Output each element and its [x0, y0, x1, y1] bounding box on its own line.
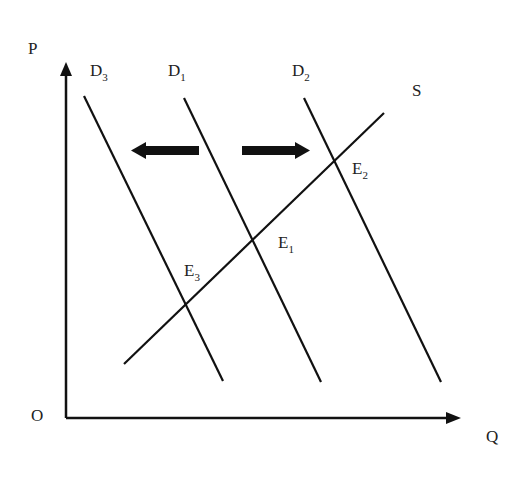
origin-label: O: [31, 406, 43, 425]
d2-label: D2: [292, 61, 310, 83]
s-label: S: [412, 81, 421, 100]
demand-curve-d2: [304, 98, 441, 382]
axes: [60, 62, 461, 424]
e1-label: E1: [278, 233, 294, 255]
demand-curve-d3: [84, 96, 223, 381]
e3-label: E3: [184, 261, 200, 283]
shift-arrow-right-icon: [242, 142, 310, 159]
d1-label: D1: [168, 61, 186, 83]
x-axis-arrowhead-icon: [446, 412, 461, 424]
supply-demand-diagram: P Q O D3 D1 D2 S E2 E1 E3: [0, 0, 528, 480]
y-axis-label: P: [28, 39, 37, 58]
shift-arrow-left-icon: [131, 142, 199, 159]
x-axis-label: Q: [486, 427, 498, 446]
d3-label: D3: [90, 61, 108, 83]
y-axis-arrowhead-icon: [60, 62, 72, 76]
e2-label: E2: [352, 159, 368, 181]
